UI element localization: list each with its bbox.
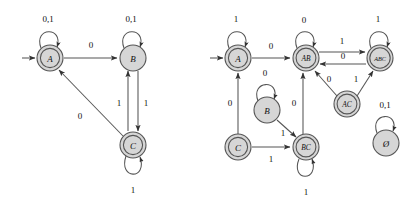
state-right-AC[interactable]: AC [334,91,360,117]
edge-label-left-A-to-B: 0 [89,40,94,50]
edge-label-right-EMPTY-self: 0,1 [379,100,390,110]
state-right-empty-set[interactable]: Ø [373,130,399,156]
state-left-B[interactable]: B [120,45,146,71]
edge-label-right-BC-to-AB: 0 [292,98,297,108]
edge-label-right-B-to-BC: 1 [281,128,286,138]
state-right-AC-label: AC [341,100,352,109]
state-right-ABC[interactable]: ABC [367,45,393,71]
state-right-BC[interactable]: BC [293,134,319,160]
edge-label-right-C-to-A: 0 [228,98,233,108]
edge-label-right-C-to-BC: 1 [269,154,274,164]
edge-label-left-C-self: 1 [131,185,136,195]
edge-right-BC-self [297,159,313,176]
state-left-A-label: A [46,54,53,64]
state-right-empty-label: Ø [382,139,390,149]
state-left-C-label: C [130,141,137,151]
edge-label-right-AC-to-AB: 0 [327,74,332,84]
state-right-AB[interactable]: AB [293,45,319,71]
edge-label-left-B-to-C: 1 [144,98,149,108]
edge-label-right-AC-to-ABC: 1 [354,74,359,84]
edge-label-left-B-self: 0,1 [125,14,136,24]
edge-left-C-to-A [59,70,123,136]
edge-label-left-C-to-A: 0 [78,111,83,121]
state-right-B[interactable]: B [254,97,280,123]
edge-label-right-A-self: 1 [234,14,239,24]
edge-label-right-ABC-to-AB: 0 [341,51,346,61]
state-right-B-label: B [264,106,270,116]
diagram-canvas: 0,1 0 0,1 1 1 0 1 A [0,0,414,204]
edge-label-right-A-to-AB: 0 [269,41,274,51]
state-right-AB-label: AB [300,54,311,63]
state-left-C[interactable]: C [120,132,146,158]
edge-left-C-self [125,156,142,174]
edge-label-right-BC-self: 1 [304,187,309,197]
state-left-B-label: B [130,54,136,64]
automata-figure: 0,1 0 0,1 1 1 0 1 A [0,0,414,204]
state-right-A[interactable]: A [225,45,251,71]
edge-label-right-ABC-self: 1 [376,14,381,24]
state-right-C[interactable]: C [225,134,251,160]
state-right-C-label: C [235,143,242,153]
edge-label-right-B-self: 0 [263,68,268,78]
edge-label-left-C-to-B: 1 [117,98,122,108]
edge-label-right-AB-self: 0 [302,15,307,25]
edge-label-right-AB-to-ABC: 1 [340,36,345,46]
state-left-A[interactable]: A [37,45,63,71]
state-right-A-label: A [234,54,241,64]
edge-label-left-A-self: 0,1 [42,14,53,24]
edge-right-AC-to-ABC [357,71,373,96]
state-right-BC-label: BC [301,143,311,152]
left-automaton: 0,1 0 0,1 1 1 0 1 A [22,14,148,195]
state-right-ABC-label: ABC [373,55,387,62]
right-automaton: 1 0 0 1 0 1 0 1 0 [210,14,399,197]
